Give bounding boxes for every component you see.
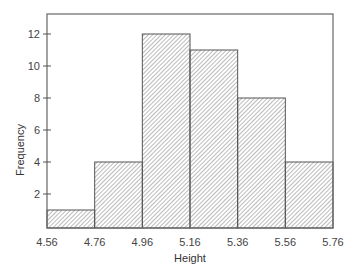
histogram-bar xyxy=(95,162,143,228)
histogram-bar xyxy=(238,98,286,228)
x-tick-label: 5.56 xyxy=(275,236,296,248)
histogram-bar xyxy=(142,34,190,228)
x-tick-label: 5.36 xyxy=(227,236,248,248)
y-axis-label: Frequency xyxy=(14,124,26,176)
histogram-bar xyxy=(47,210,95,228)
histogram-bar xyxy=(285,162,333,228)
histogram-bar xyxy=(190,50,238,228)
x-tick-label: 5.76 xyxy=(322,236,343,248)
y-tick-label: 4 xyxy=(34,156,40,168)
y-tick-label: 12 xyxy=(28,28,40,40)
x-tick-label: 4.56 xyxy=(36,236,57,248)
y-tick-label: 10 xyxy=(28,60,40,72)
x-axis-ticks: 4.564.764.965.165.365.565.76 xyxy=(36,236,343,248)
y-tick-label: 6 xyxy=(34,124,40,136)
histogram-chart: 24681012 4.564.764.965.165.365.565.76 He… xyxy=(0,0,357,272)
x-tick-label: 4.96 xyxy=(132,236,153,248)
x-tick-label: 4.76 xyxy=(84,236,105,248)
y-tick-label: 2 xyxy=(34,188,40,200)
histogram-bars xyxy=(47,34,333,228)
x-tick-label: 5.16 xyxy=(179,236,200,248)
y-tick-label: 8 xyxy=(34,92,40,104)
x-axis-label: Height xyxy=(174,252,206,264)
